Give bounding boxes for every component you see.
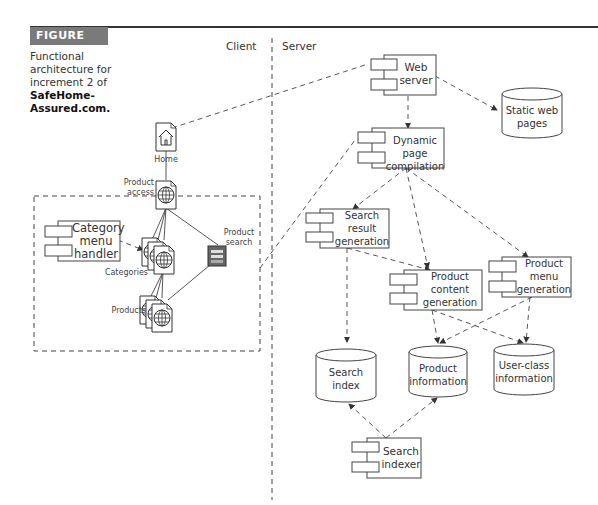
label-line: index (316, 379, 376, 392)
products-label: Products (104, 306, 146, 316)
static-web-pages-label: Static web pages (502, 104, 562, 130)
label-line: User-class (490, 359, 558, 372)
label-line: compilation (384, 160, 446, 173)
label-line: pages (502, 117, 562, 130)
label-line: indexer (381, 458, 421, 471)
label-line: search (222, 238, 256, 248)
search-result-label: Search result generation (334, 209, 390, 248)
product-search-label: Product search (222, 228, 256, 248)
label-line: Dynamic page (384, 134, 446, 160)
label-line: Product (118, 178, 154, 188)
product-information-label: Product information (405, 362, 471, 388)
label-line: Search (381, 445, 421, 458)
label-line: generation (516, 283, 572, 296)
dynamic-page-label: Dynamic page compilation (384, 134, 446, 173)
label-line: menu (516, 270, 572, 283)
label-line: handler (72, 248, 120, 261)
user-class-information-label: User-class information (490, 359, 558, 385)
search-index-label: Search index (316, 366, 376, 392)
label-line: Web (398, 61, 434, 74)
product-menu-label: Product menu generation (516, 257, 572, 296)
label-line: generation (418, 296, 482, 309)
label-line: server (398, 74, 434, 87)
label-line: Product (405, 362, 471, 375)
product-content-label: Product content generation (418, 270, 482, 309)
web-server-label: Web server (398, 61, 434, 87)
label-line: generation (334, 235, 390, 248)
label-line: Product (418, 270, 482, 283)
label-line: Product (222, 228, 256, 238)
categories-label: Categories (104, 268, 148, 278)
label-line: information (405, 375, 471, 388)
label-line: information (490, 372, 558, 385)
search-indexer-label: Search indexer (381, 445, 421, 471)
label-line: Static web (502, 104, 562, 117)
product-access-label: Product access (118, 178, 154, 198)
category-menu-handler-label: Category menu handler (72, 222, 120, 261)
label-line: result (334, 222, 390, 235)
product-search-icon (208, 246, 226, 266)
label-line: content (418, 283, 482, 296)
home-label: Home (150, 155, 182, 165)
product-access-icon (156, 181, 176, 209)
label-line: Product (516, 257, 572, 270)
label-line: access (118, 188, 154, 198)
label-line: Search (334, 209, 390, 222)
label-line: Search (316, 366, 376, 379)
home-page-icon (156, 123, 176, 151)
